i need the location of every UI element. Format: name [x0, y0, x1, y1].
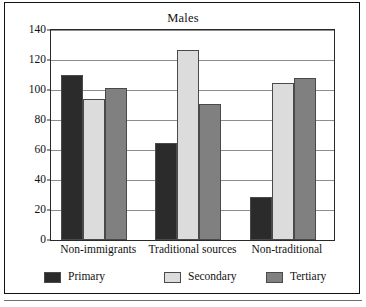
y-tick-label: 140 [29, 24, 46, 36]
legend-swatch-primary [44, 272, 61, 283]
legend-item-primary: Primary [44, 271, 105, 283]
bar-tertiary-1 [199, 104, 221, 240]
figure-container: Males 020406080100120140 Non-immigrantsT… [0, 0, 366, 307]
bar-tertiary-2 [294, 78, 316, 240]
y-tick-label: 40 [35, 174, 47, 186]
chart-legend: Primary Secondary Tertiary [4, 266, 360, 288]
legend-label-tertiary: Tertiary [290, 271, 326, 283]
y-tick-label: 100 [29, 84, 46, 96]
legend-label-primary: Primary [68, 271, 105, 283]
x-tick-label: Non-immigrants [60, 244, 136, 256]
bar-group [240, 30, 334, 240]
bar-secondary-0 [83, 99, 105, 240]
gridline [51, 240, 334, 241]
bar-secondary-1 [177, 50, 199, 240]
y-tick-label: 0 [40, 234, 46, 246]
legend-swatch-tertiary [266, 272, 283, 283]
legend-item-secondary: Secondary [164, 271, 237, 283]
x-tick-label: Traditional sources [148, 244, 236, 256]
bar-group [51, 30, 145, 240]
chart-frame: Males 020406080100120140 Non-immigrantsT… [4, 2, 360, 294]
y-tick-label: 20 [35, 204, 47, 216]
legend-swatch-secondary [164, 272, 181, 283]
bars-layer [51, 30, 334, 240]
plot-area: 020406080100120140 Non-immigrantsTraditi… [50, 29, 335, 241]
legend-label-secondary: Secondary [188, 271, 237, 283]
bar-tertiary-0 [105, 88, 127, 240]
x-tick-label: Non-traditional [251, 244, 322, 256]
bar-primary-0 [61, 75, 83, 240]
bar-primary-2 [250, 197, 272, 241]
legend-item-tertiary: Tertiary [266, 271, 326, 283]
chart-title: Males [5, 11, 361, 26]
y-tick-label: 120 [29, 54, 46, 66]
y-tick-label: 60 [35, 144, 47, 156]
page-rule [4, 300, 362, 301]
bar-primary-1 [155, 143, 177, 241]
bar-group [145, 30, 239, 240]
y-tick-label: 80 [35, 114, 47, 126]
bar-secondary-2 [272, 83, 294, 241]
